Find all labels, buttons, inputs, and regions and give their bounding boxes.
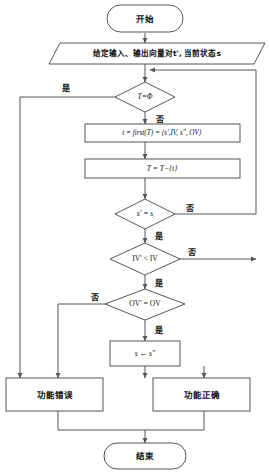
edge-label-state-no: 否 — [185, 204, 194, 213]
edge-label-ov-no: 否 — [90, 293, 99, 302]
edge-label-state-yes: 是 — [154, 231, 163, 241]
node-decision-empty[interactable]: T=Φ — [115, 82, 175, 112]
node-decision-ov[interactable]: OV' = OV — [105, 289, 185, 320]
node-start[interactable]: 开始 — [107, 5, 183, 32]
node-decision-iv[interactable]: IV' < IV — [110, 243, 180, 275]
node-start-label: 开始 — [136, 14, 154, 24]
node-decision-empty-label: T=Φ — [137, 92, 152, 101]
edge-decision-ov-no — [58, 304, 115, 378]
node-assign[interactable]: s ← s" — [110, 341, 180, 366]
edge-label-empty-no: 否 — [155, 115, 164, 124]
flowchart-canvas: 开始 给定输入、输出向量对t', 当前状态s T=Φ t = first(T) … — [0, 0, 269, 472]
node-input[interactable]: 给定输入、输出向量对t', 当前状态s — [49, 43, 265, 64]
edge-fail-to-end — [58, 411, 145, 430]
edge-label-empty-yes: 是 — [61, 83, 70, 93]
node-end-label: 结束 — [136, 451, 154, 461]
edge-pass-to-end — [145, 411, 204, 430]
edge-label-iv-no: 否 — [187, 248, 196, 257]
node-fail[interactable]: 功能错误 — [6, 378, 103, 411]
node-first[interactable]: t = first(T) = ⟨s',IV, s", OV⟩ — [85, 124, 240, 142]
node-pass-label: 功能正确 — [184, 390, 220, 400]
node-remove-label: T = T−{t} — [147, 164, 178, 173]
node-decision-ov-label: OV' = OV — [129, 299, 161, 308]
node-remove[interactable]: T = T−{t} — [85, 159, 240, 178]
node-decision-iv-label: IV' < IV — [132, 254, 158, 263]
edge-label-ov-yes: 是 — [154, 325, 163, 335]
node-input-label: 给定输入、输出向量对t', 当前状态s — [93, 48, 221, 58]
edge-label-iv-yes: 是 — [154, 278, 163, 288]
node-assign-label: s ← s" — [135, 349, 156, 358]
node-first-label: t = first(T) = ⟨s',IV, s", OV⟩ — [122, 129, 202, 137]
flowchart-svg: 开始 给定输入、输出向量对t', 当前状态s T=Φ t = first(T) … — [0, 0, 269, 472]
node-pass[interactable]: 功能正确 — [153, 378, 250, 411]
node-fail-label: 功能错误 — [37, 390, 73, 400]
node-decision-state-label: s' = s — [137, 209, 154, 218]
node-end[interactable]: 结束 — [104, 443, 186, 469]
node-decision-state[interactable]: s' = s — [115, 199, 175, 229]
